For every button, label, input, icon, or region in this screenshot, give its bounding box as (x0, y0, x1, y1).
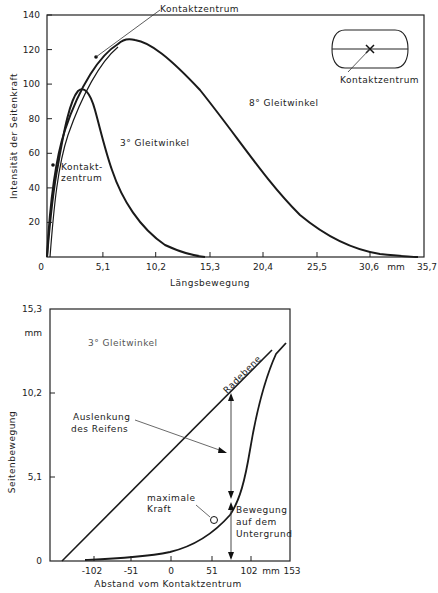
ann-8deg: 8° Gleitwinkel (249, 98, 319, 108)
y-tick: 140 (23, 10, 40, 20)
x-tick: 15,3 (200, 262, 220, 272)
y-tick: 0 (36, 556, 42, 566)
x-tick: 51 (206, 566, 217, 576)
x-axis-title: Abstand vom Kontaktzentrum (94, 579, 241, 589)
top-y-tick-labels: 140 120 100 80 60 40 20 (23, 10, 40, 227)
x-tick: 20,4 (253, 262, 273, 272)
x-unit: mm (262, 566, 280, 576)
y-tick: 60 (29, 148, 41, 158)
y-tick: 15,3 (22, 304, 42, 314)
y-tick: 80 (29, 114, 41, 124)
y-unit: mm (24, 328, 42, 338)
top-chart: 140 120 100 80 60 40 20 0 5,1 10,2 15,3 … (9, 4, 437, 288)
x-tick: -51 (124, 566, 139, 576)
leader-line (96, 10, 160, 57)
ann-auslenkung-1: Auslenkung (73, 412, 130, 422)
ann-auslenkung-2: des Reifens (71, 424, 128, 434)
x-axis-title: Längsbewegung (170, 278, 250, 288)
bottom-y-tick-labels: 15,3 10,2 5,1 0 (22, 304, 42, 566)
y-tick: 20 (29, 217, 41, 227)
contact-marker-3deg (51, 163, 55, 167)
ann-maxkraft-2: Kraft (147, 504, 171, 514)
chart-title: 3° Gleitwinkel (88, 338, 158, 348)
bottom-y-ticks (50, 393, 55, 477)
ann-bewegung-2: auf dem (236, 517, 277, 527)
ann-kontaktzentrum: Kontaktzentrum (160, 4, 239, 14)
figure: 140 120 100 80 60 40 20 0 5,1 10,2 15,3 … (0, 0, 438, 593)
y-axis-title: Seitenbewegung (7, 411, 17, 494)
tire-inset: Kontaktzentrum (332, 30, 419, 85)
y-tick: 120 (23, 45, 40, 55)
x-tick-zero: 0 (38, 262, 44, 272)
x-tick: 25,5 (307, 262, 327, 272)
top-x-ticks (103, 252, 370, 257)
leader-line (196, 505, 210, 517)
arrow-down-icon (228, 552, 234, 560)
bottom-chart: 15,3 10,2 5,1 0 mm Seitenbewegung -102 -… (7, 304, 301, 589)
y-axis-title: Intensität der Seitenkraft (9, 73, 19, 199)
x-tick: 0 (168, 566, 174, 576)
ann-kontakt-1: Kontakt- (61, 162, 103, 172)
y-tick: 10,2 (22, 388, 42, 398)
arrow-icon (218, 447, 227, 453)
x-tick: 30,6 (359, 262, 379, 272)
ann-kontakt-2: zentrum (61, 173, 102, 183)
leader-line (135, 420, 225, 452)
arrow-down-icon (228, 491, 234, 499)
x-tick: 35,7 (417, 262, 437, 272)
x-tick: 153 (283, 566, 300, 576)
x-tick: -102 (82, 566, 102, 576)
ann-radebene: Radebene (221, 353, 263, 395)
max-force-marker (211, 517, 218, 524)
curve-ground-movement (85, 343, 286, 560)
ann-3deg: 3° Gleitwinkel (120, 138, 190, 148)
x-tick: 5,1 (96, 262, 110, 272)
top-x-tick-labels: 5,1 10,2 15,3 20,4 25,5 30,6 35,7 (96, 262, 437, 272)
arrow-up-icon (228, 502, 234, 510)
y-tick: 40 (29, 183, 41, 193)
ann-bewegung-3: Untergrund (236, 529, 292, 539)
inset-label: Kontaktzentrum (340, 75, 419, 85)
top-y-ticks (47, 15, 52, 222)
ann-bewegung-1: Bewegung (236, 505, 287, 515)
x-unit: mm (387, 262, 405, 272)
x-tick: 102 (240, 566, 257, 576)
y-tick: 5,1 (28, 472, 42, 482)
y-tick: 100 (23, 79, 40, 89)
curve-8deg (47, 39, 418, 257)
x-tick: 10,2 (146, 262, 166, 272)
ann-maxkraft-1: maximale (147, 493, 195, 503)
